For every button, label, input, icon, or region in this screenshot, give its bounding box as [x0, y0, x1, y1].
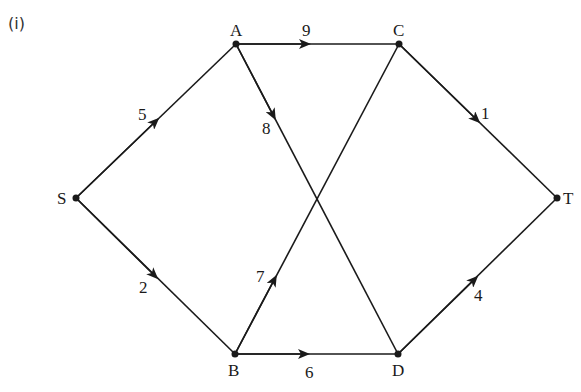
node-a-dot: [233, 41, 240, 48]
arrow-d-t-icon: [398, 280, 474, 354]
weight-s-a: 5: [138, 106, 147, 123]
weight-s-b: 2: [139, 279, 148, 296]
node-label-c: C: [393, 22, 404, 39]
node-c-dot: [396, 41, 403, 48]
weight-a-d: 8: [262, 120, 271, 137]
weight-c-t: 1: [481, 105, 490, 122]
node-b-dot: [232, 351, 239, 358]
arrow-s-b-icon: [76, 198, 154, 275]
node-label-b: B: [228, 362, 239, 379]
arrow-a-d-icon: [236, 44, 273, 115]
weight-d-t: 4: [474, 287, 483, 304]
network-diagram: [0, 0, 581, 392]
node-label-s: S: [57, 190, 66, 207]
arrow-c-t-icon: [399, 44, 476, 119]
arrow-b-c-icon: [235, 280, 274, 354]
node-s-dot: [73, 195, 80, 202]
arrow-s-a-icon: [76, 122, 155, 198]
node-t-dot: [554, 195, 561, 202]
node-label-a: A: [230, 22, 242, 39]
node-d-dot: [395, 351, 402, 358]
node-label-d: D: [392, 362, 404, 379]
weight-b-d: 6: [305, 364, 314, 381]
node-label-t: T: [563, 190, 573, 207]
weight-a-c: 9: [302, 22, 311, 39]
weight-b-c: 7: [256, 268, 265, 285]
